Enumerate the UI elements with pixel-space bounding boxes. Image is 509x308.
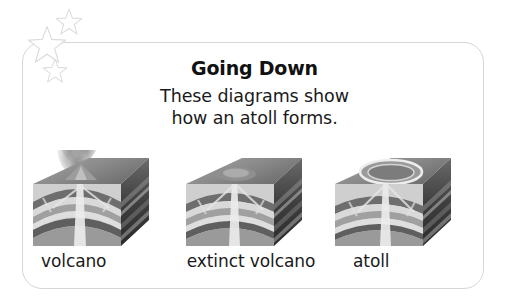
volcano-block-figure [23,150,173,258]
atoll-ring [360,160,422,184]
extinct-volcano-block-figure [176,150,326,258]
heading-block: Going Down These diagrams show how an at… [0,57,509,129]
block-front-face [335,180,423,246]
subtitle-line-1: These diagrams show [0,85,509,107]
caption-atoll: atoll [325,251,475,271]
diagram-volcano: volcano [23,150,173,285]
diagram-row: volcano [0,150,509,285]
block-front-face [33,180,121,246]
diagram-extinct-volcano: extinct volcano [176,150,326,285]
star-icon [55,8,83,36]
block-front-face [186,178,274,246]
subtitle-line-2: how an atoll forms. [0,107,509,129]
caption-volcano: volcano [23,251,173,271]
diagram-atoll: atoll [325,150,475,285]
atoll-block-figure [325,150,475,258]
page-title: Going Down [0,57,509,80]
caption-extinct-volcano: extinct volcano [176,251,326,271]
